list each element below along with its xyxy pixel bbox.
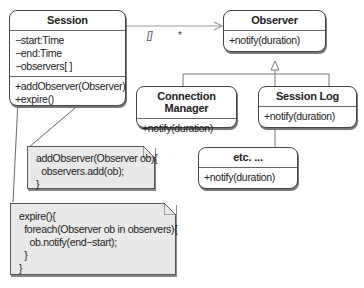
class-session[interactable]: Session −start:Time −end:Time −observers… xyxy=(9,10,126,106)
attribute: −observers[ ] xyxy=(15,60,120,73)
operations-section: +notify(duration) xyxy=(199,168,297,187)
operation: +addObserver(Observer) xyxy=(15,80,120,93)
class-title: Session Log xyxy=(259,87,356,107)
class-connection-manager[interactable]: Connection Manager +notify(duration) xyxy=(136,86,237,128)
class-session-log[interactable]: Session Log +notify(duration) xyxy=(258,86,357,128)
operation: +notify(duration) xyxy=(229,34,320,47)
attributes-section: −start:Time −end:Time −observers[ ] xyxy=(10,31,125,76)
note-fold-icon xyxy=(143,146,155,158)
association-role-label: [] xyxy=(147,30,153,41)
attribute: −end:Time xyxy=(15,47,120,60)
class-observer[interactable]: Observer +notify(duration) xyxy=(223,10,326,52)
association-multiplicity: * xyxy=(178,30,182,41)
operations-section: +notify(duration) xyxy=(224,31,325,50)
operation: +expire() xyxy=(15,93,120,106)
operation: +notify(duration) xyxy=(264,110,351,123)
note-fold-icon xyxy=(164,203,176,215)
class-title: Connection Manager xyxy=(137,87,236,119)
note-add-observer[interactable]: addObserver(Observer ob){ observers.add(… xyxy=(27,146,155,189)
operation: +notify(duration) xyxy=(204,171,292,184)
operations-section: +notify(duration) xyxy=(259,107,356,126)
class-etc[interactable]: etc. ... +notify(duration) xyxy=(198,147,298,189)
operation: +notify(duration) xyxy=(142,122,231,135)
class-title: etc. ... xyxy=(199,148,297,168)
class-title: Session xyxy=(10,11,125,31)
operations-section: +notify(duration) xyxy=(137,119,236,138)
note-expire[interactable]: expire(){ foreach(Observer ob in observe… xyxy=(10,203,176,275)
code-line: } xyxy=(36,178,146,191)
operations-section: +addObserver(Observer) +expire() xyxy=(10,76,125,109)
code-line: observers.add(ob); xyxy=(36,165,146,178)
code-line: foreach(Observer ob in observers){ xyxy=(19,223,167,236)
class-title: Observer xyxy=(224,11,325,31)
attribute: −start:Time xyxy=(15,34,120,47)
code-line: addObserver(Observer ob){ xyxy=(36,152,146,165)
code-line: expire(){ xyxy=(19,210,167,223)
code-line: ob.notify(end−start); xyxy=(19,236,167,249)
code-line: } xyxy=(19,249,167,262)
code-line: } xyxy=(19,262,167,275)
